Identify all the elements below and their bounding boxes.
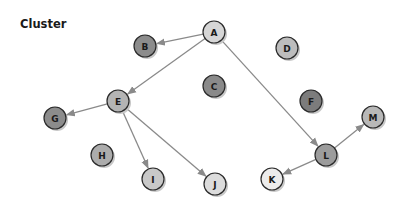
node-label: C xyxy=(211,82,218,92)
node-d[interactable]: D xyxy=(276,37,300,61)
node-label: I xyxy=(151,175,154,185)
edge-l-m xyxy=(335,125,364,149)
edge-a-b xyxy=(157,34,203,43)
node-label: B xyxy=(142,42,149,52)
edge-e-j xyxy=(126,108,206,176)
node-j[interactable]: J xyxy=(204,173,228,197)
edge-e-g xyxy=(67,104,108,115)
node-i[interactable]: I xyxy=(142,168,166,192)
node-label: K xyxy=(269,175,277,185)
node-label: G xyxy=(51,114,58,124)
node-label: H xyxy=(98,151,106,161)
node-label: F xyxy=(308,97,314,107)
node-k[interactable]: K xyxy=(261,168,285,192)
node-m[interactable]: M xyxy=(362,106,386,130)
node-e[interactable]: E xyxy=(107,90,131,114)
node-f[interactable]: F xyxy=(300,90,324,114)
cluster-graph: ABCDEFGHIJKLM xyxy=(0,0,409,211)
node-label: A xyxy=(211,28,218,38)
node-label: E xyxy=(115,97,121,107)
node-label: J xyxy=(212,180,216,190)
node-a[interactable]: A xyxy=(203,21,227,45)
edge-e-i xyxy=(123,111,149,168)
node-label: M xyxy=(369,113,378,123)
edge-l-k xyxy=(283,159,316,174)
nodes-layer: ABCDEFGHIJKLM xyxy=(44,21,386,197)
node-h[interactable]: H xyxy=(91,144,115,168)
node-label: D xyxy=(283,44,290,54)
node-c[interactable]: C xyxy=(203,75,227,99)
node-b[interactable]: B xyxy=(134,35,158,59)
node-g[interactable]: G xyxy=(44,107,68,131)
node-label: L xyxy=(323,151,329,161)
